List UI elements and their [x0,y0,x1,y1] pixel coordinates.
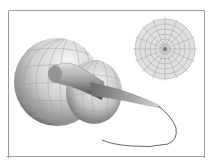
polar-center [163,47,167,51]
figure-canvas [0,0,211,167]
polar-grid-inset [133,17,197,81]
